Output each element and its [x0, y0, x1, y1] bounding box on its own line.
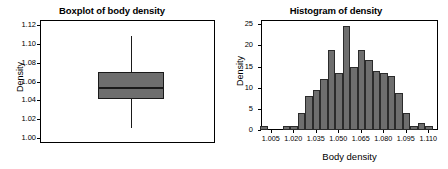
- histogram-bar: [365, 60, 373, 130]
- boxplot-box: [98, 72, 164, 99]
- figure-container: Boxplot of body density Density 1.001.02…: [0, 0, 448, 169]
- histogram-bar: [343, 26, 351, 131]
- histogram-bar: [313, 90, 321, 130]
- histogram-x-tick-mark: [293, 130, 294, 133]
- histogram-y-tick-label: 5: [249, 105, 253, 113]
- boxplot-median-line: [98, 87, 164, 89]
- boxplot-y-tick-label: 1.12: [21, 21, 36, 29]
- histogram-x-tick-label: 1.080: [374, 135, 392, 142]
- histogram-x-tick-mark: [428, 130, 429, 133]
- histogram-bar: [395, 93, 403, 130]
- boxplot-y-tick-label: 1.02: [21, 115, 36, 123]
- histogram-bar: [403, 113, 411, 130]
- histogram-x-tick-mark: [316, 130, 317, 133]
- histogram-bar: [358, 50, 366, 130]
- boxplot-y-axis-ticks: 1.001.021.041.061.081.101.12: [2, 20, 36, 143]
- histogram-x-tick-mark: [383, 130, 384, 133]
- histogram-bar: [410, 126, 418, 130]
- histogram-y-tick-label: 20: [245, 41, 253, 49]
- histogram-y-axis-ticks: 0510152025: [224, 20, 258, 130]
- histogram-bar: [328, 50, 336, 130]
- histogram-y-tick-label: 15: [245, 63, 253, 71]
- boxplot-lower-whisker: [131, 99, 132, 128]
- histogram-bar: [298, 113, 306, 130]
- histogram-bar: [283, 126, 291, 130]
- histogram-y-tick-label: 25: [245, 20, 253, 28]
- boxplot-y-tick-label: 1.10: [21, 40, 36, 48]
- histogram-x-tick-label: 1.065: [352, 135, 370, 142]
- boxplot-y-tick-label: 1.06: [21, 78, 36, 86]
- histogram-x-tick-mark: [338, 130, 339, 133]
- histogram-bar: [335, 73, 343, 130]
- histogram-x-tick-label: 1.050: [329, 135, 347, 142]
- histogram-x-axis-label: Body density: [261, 151, 438, 162]
- histogram-bar: [305, 96, 313, 130]
- histogram-bar: [380, 73, 388, 130]
- histogram-x-tick-mark: [406, 130, 407, 133]
- histogram-bar: [320, 79, 328, 130]
- boxplot-title: Boxplot of body density: [0, 5, 224, 16]
- histogram-y-tick-mark: [258, 130, 261, 131]
- boxplot-upper-whisker: [131, 36, 132, 72]
- histogram-bars: [261, 20, 438, 130]
- histogram-x-tick-label: 1.020: [284, 135, 302, 142]
- boxplot-y-tick-label: 1.08: [21, 59, 36, 67]
- histogram-x-tick-label: 1.095: [397, 135, 415, 142]
- histogram-title: Histogram of density: [224, 5, 448, 16]
- histogram-x-tick-label: 1.110: [420, 135, 437, 142]
- histogram-x-tick-mark: [271, 130, 272, 133]
- histogram-panel: Histogram of density Density 0510152025 …: [224, 0, 448, 169]
- boxplot-panel: Boxplot of body density Density 1.001.02…: [0, 0, 224, 169]
- boxplot-y-tick-label: 1.00: [21, 134, 36, 142]
- histogram-bar: [373, 71, 381, 130]
- histogram-bar: [388, 76, 396, 130]
- histogram-x-tick-label: 1.005: [262, 135, 280, 142]
- histogram-x-tick-label: 1.035: [307, 135, 325, 142]
- boxplot-graphics: [40, 20, 215, 143]
- histogram-bar: [418, 123, 426, 130]
- histogram-x-tick-mark: [361, 130, 362, 133]
- histogram-y-tick-label: 0: [249, 126, 253, 134]
- histogram-bar: [260, 126, 268, 130]
- histogram-bar: [350, 67, 358, 130]
- boxplot-y-tick-label: 1.04: [21, 96, 36, 104]
- histogram-y-tick-label: 10: [245, 84, 253, 92]
